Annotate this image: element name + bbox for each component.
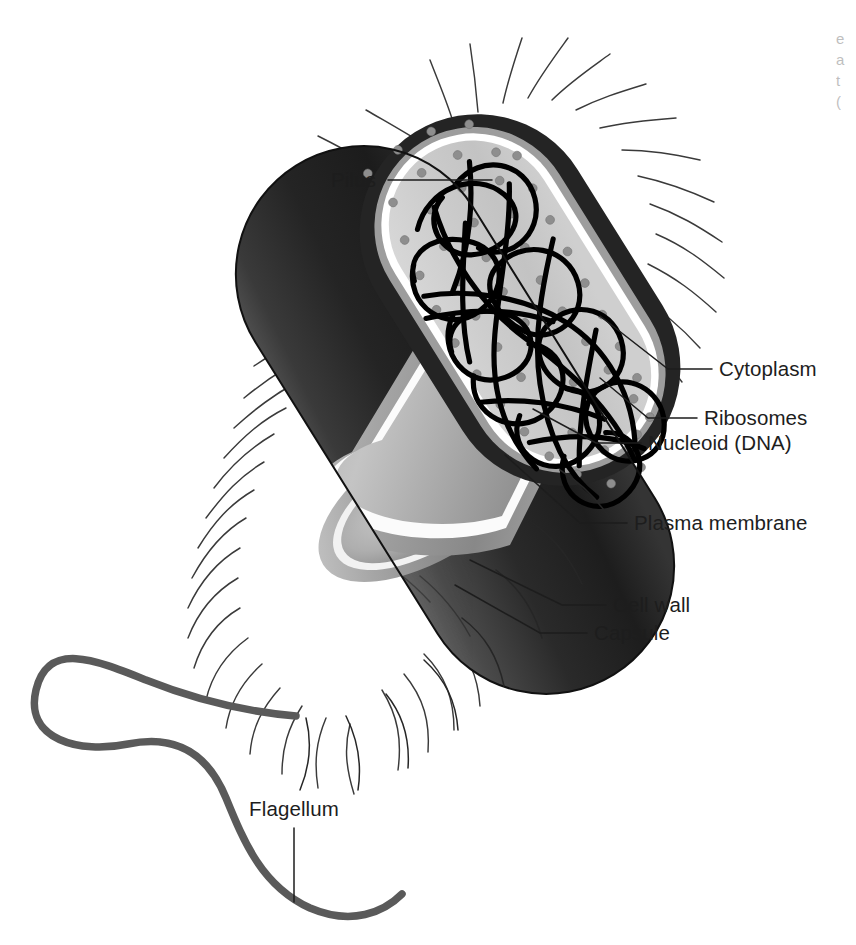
label-ribosomes: Ribosomes	[704, 406, 807, 429]
label-cell-wall: Cell wall	[613, 593, 690, 616]
label-cytoplasm: Cytoplasm	[719, 357, 817, 380]
cell-body-group	[187, 70, 733, 790]
prokaryotic-cell-figure: Pilus Cytoplasm Ribosomes Nucleoid (DNA)…	[0, 0, 856, 945]
label-flagellum: Flagellum	[249, 797, 339, 820]
cell-diagram-canvas: Pilus Cytoplasm Ribosomes Nucleoid (DNA)…	[0, 0, 856, 945]
flagellum-filament	[34, 659, 402, 917]
label-plasma-membrane: Plasma membrane	[634, 511, 808, 534]
label-pilus: Pilus	[331, 168, 376, 191]
flagellum-group	[34, 659, 402, 917]
label-capsule: Capsule	[594, 621, 670, 644]
label-nucleoid: Nucleoid (DNA)	[648, 431, 792, 454]
